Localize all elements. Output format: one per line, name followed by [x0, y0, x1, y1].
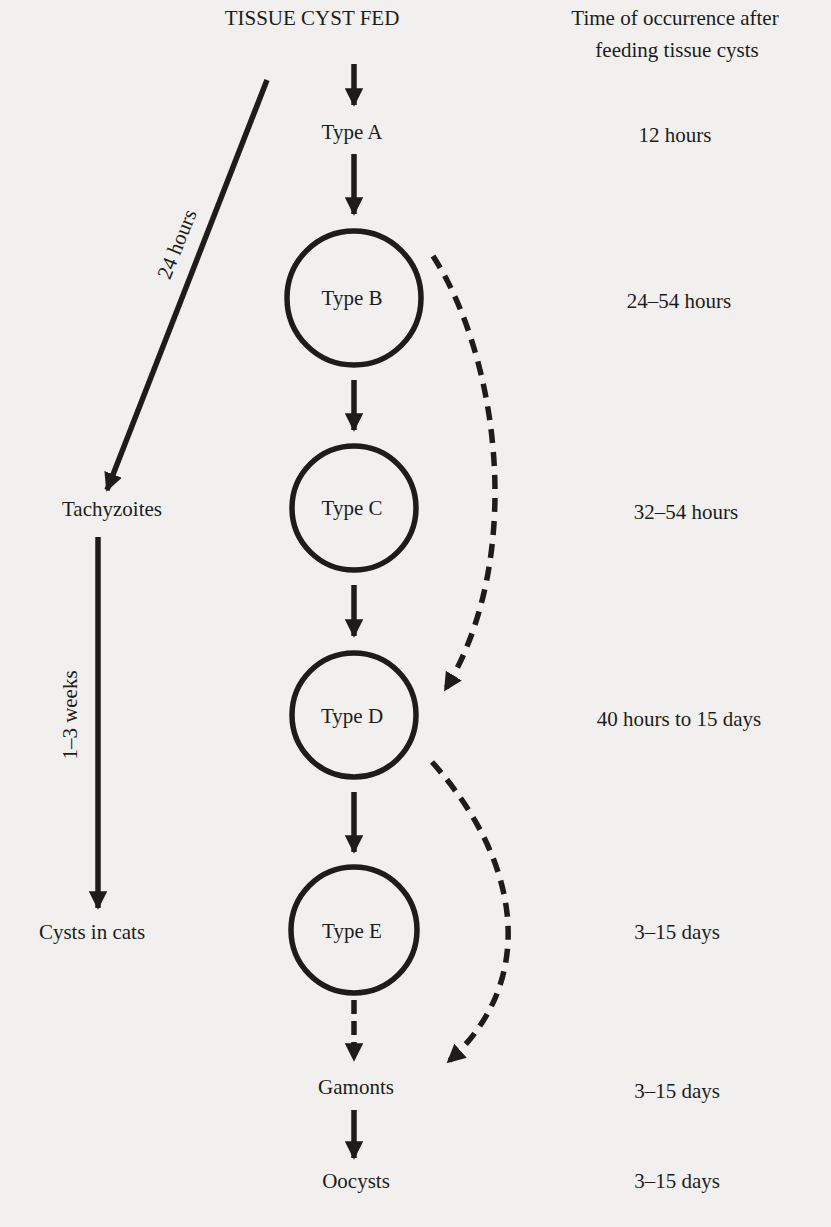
time-type-b: 24–54 hours	[627, 289, 731, 313]
edge-label-1-3-weeks: 1–3 weeks	[58, 670, 82, 759]
type-d-label: Type D	[321, 704, 383, 728]
time-oocysts: 3–15 days	[634, 1169, 720, 1193]
gamonts-label: Gamonts	[318, 1075, 394, 1099]
tissue-cyst-fed-label: TISSUE CYST FED	[225, 6, 400, 30]
dashed-arrow-d-to-gamonts	[432, 762, 508, 1062]
time-type-d: 40 hours to 15 days	[597, 707, 762, 731]
type-c-label: Type C	[322, 496, 383, 520]
time-type-c: 32–54 hours	[634, 500, 738, 524]
time-header-line-2: feeding tissue cysts	[595, 38, 758, 63]
cysts-in-cats-label: Cysts in cats	[39, 920, 145, 944]
time-header-line-1: Time of occurrence after	[571, 6, 778, 31]
time-gamonts: 3–15 days	[634, 1079, 720, 1103]
time-type-e: 3–15 days	[634, 920, 720, 944]
diagram-graphics	[0, 0, 831, 1227]
type-e-label: Type E	[322, 919, 382, 943]
dashed-arrow-b-to-d	[433, 256, 495, 690]
tachyzoites-label: Tachyzoites	[62, 497, 162, 521]
arrow-fed-to-tachyzoites	[107, 80, 267, 490]
type-b-label: Type B	[322, 286, 383, 310]
time-type-a: 12 hours	[639, 123, 712, 147]
oocysts-label: Oocysts	[322, 1169, 390, 1193]
life-cycle-diagram: TISSUE CYST FED Type A Type B Type C Typ…	[0, 0, 831, 1227]
type-a-label: Type A	[322, 120, 383, 144]
